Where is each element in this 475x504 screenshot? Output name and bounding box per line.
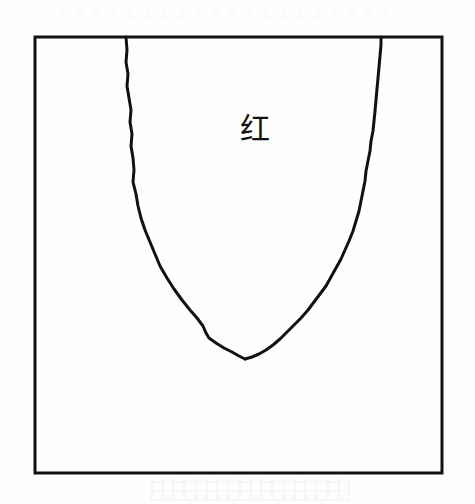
- inner-region-label-text: 红: [240, 114, 270, 144]
- figure-root: 红: [0, 0, 475, 504]
- inner-region-label: 红: [232, 107, 278, 151]
- figure-background: [0, 0, 475, 504]
- figure-canvas: [0, 0, 475, 504]
